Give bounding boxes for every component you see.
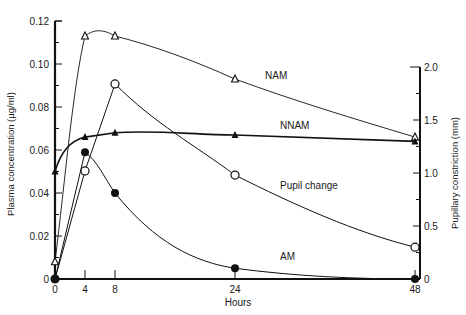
marker-am-filled-circle-icon	[51, 275, 59, 283]
y-tick-label: 0.08	[30, 102, 50, 113]
marker-pupil-change-open-circle-icon	[111, 80, 119, 88]
series-label-nnam: NNAM	[280, 120, 309, 131]
series-labels: NAMNNAMPupil changeAM	[265, 70, 338, 262]
marker-pupil-change-open-circle-icon	[411, 243, 419, 251]
series-line-nam	[55, 31, 415, 262]
y-tick-label: 0.06	[30, 145, 50, 156]
y-tick-label: 0.02	[30, 231, 50, 242]
y2-tick-label: 1.0	[424, 168, 438, 179]
series-line-pupil-change	[55, 84, 415, 279]
y-tick-label: 0.04	[30, 188, 50, 199]
y2-tick-label: 0.5	[424, 221, 438, 232]
marker-nam-open-triangle-icon	[112, 32, 119, 39]
x-tick-label: 24	[229, 284, 241, 295]
y-axis-label: Plasma concentration (µg/ml)	[5, 92, 16, 216]
marker-am-filled-circle-icon	[231, 264, 239, 272]
marker-nam-open-triangle-icon	[52, 258, 59, 265]
x-tick-label: 0	[52, 284, 58, 295]
marker-am-filled-circle-icon	[411, 275, 419, 283]
marker-am-filled-circle-icon	[111, 189, 119, 197]
x-axis-label: Hours	[225, 297, 252, 308]
series-label-am: AM	[280, 251, 295, 262]
series-label-pupil-change: Pupil change	[280, 180, 338, 191]
marker-pupil-change-open-circle-icon	[231, 171, 239, 179]
y2-axis-label: Pupillary constriction (mm)	[449, 117, 460, 229]
y-tick-label: 0.12	[30, 16, 50, 27]
y-tick-label: 0	[43, 274, 49, 285]
y2-tick-label: 2.0	[424, 62, 438, 73]
marker-pupil-change-open-circle-icon	[81, 167, 89, 175]
x-tick-label: 4	[82, 284, 88, 295]
series-label-nam: NAM	[265, 70, 287, 81]
series-lines	[55, 31, 415, 279]
marker-am-filled-circle-icon	[81, 148, 89, 156]
x-tick-label: 8	[112, 284, 118, 295]
pharmacokinetic-chart: 00.020.040.060.080.100.1200.51.01.52.004…	[0, 0, 466, 315]
series-markers	[51, 32, 419, 283]
y2-tick-label: 0	[424, 274, 430, 285]
chart-canvas: 00.020.040.060.080.100.1200.51.01.52.004…	[0, 0, 466, 315]
axes: 00.020.040.060.080.100.1200.51.01.52.004…	[5, 16, 460, 308]
marker-nam-open-triangle-icon	[82, 32, 89, 39]
x-tick-label: 48	[409, 284, 421, 295]
y2-tick-label: 1.5	[424, 115, 438, 126]
marker-nam-open-triangle-icon	[232, 75, 239, 82]
y-tick-label: 0.10	[30, 59, 50, 70]
